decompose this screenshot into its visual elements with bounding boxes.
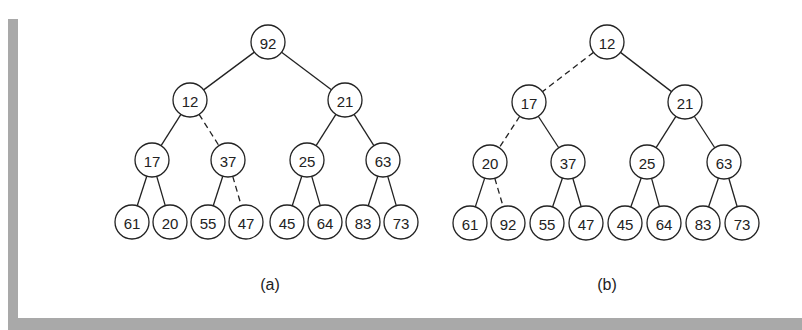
tree-b: 121721203725636192554745648373 xyxy=(453,25,759,240)
tree-edge xyxy=(652,178,660,206)
dashed-edge xyxy=(199,114,219,145)
node-label: 17 xyxy=(144,153,161,170)
tree-node: 37 xyxy=(551,145,585,179)
node-label: 55 xyxy=(539,216,556,233)
dashed-edge xyxy=(233,176,242,205)
node-label: 37 xyxy=(560,155,577,172)
node-label: 55 xyxy=(200,215,217,232)
tree-edge xyxy=(368,176,378,206)
node-label: 37 xyxy=(220,153,237,170)
tree-a: 921221173725636120554745648373 xyxy=(115,25,418,239)
tree-edge xyxy=(729,178,737,206)
tree-node: 45 xyxy=(270,205,304,239)
caption-b: (b) xyxy=(597,276,617,294)
tree-node: 83 xyxy=(346,205,380,239)
node-label: 83 xyxy=(695,216,712,233)
tree-edge xyxy=(282,52,332,90)
tree-node: 12 xyxy=(173,83,207,117)
node-label: 47 xyxy=(578,216,595,233)
node-label: 45 xyxy=(617,216,634,233)
tree-node: 20 xyxy=(153,205,187,239)
node-label: 63 xyxy=(716,155,733,172)
node-label: 20 xyxy=(162,215,179,232)
tree-edge xyxy=(475,178,484,207)
tree-edge xyxy=(388,176,397,205)
tree-node: 37 xyxy=(211,143,245,177)
node-label: 45 xyxy=(279,215,296,232)
node-label: 25 xyxy=(639,155,656,172)
node-label: 21 xyxy=(337,93,354,110)
tree-node: 17 xyxy=(135,143,169,177)
tree-node: 73 xyxy=(725,206,759,240)
tree-node: 61 xyxy=(115,205,149,239)
tree-edge xyxy=(656,116,676,147)
node-label: 63 xyxy=(375,153,392,170)
tree-edge xyxy=(161,114,181,145)
node-label: 12 xyxy=(182,93,199,110)
node-label: 25 xyxy=(299,153,316,170)
node-label: 61 xyxy=(124,215,141,232)
node-label: 20 xyxy=(482,155,499,172)
tree-edge xyxy=(213,176,223,206)
tree-edge xyxy=(157,176,166,205)
tree-node: 47 xyxy=(569,206,603,240)
tree-node: 25 xyxy=(290,143,324,177)
tree-node: 64 xyxy=(308,205,342,239)
tree-edge xyxy=(573,178,581,206)
node-label: 92 xyxy=(500,216,517,233)
tree-edge xyxy=(538,116,558,147)
node-label: 64 xyxy=(656,216,673,233)
tree-edge xyxy=(316,114,336,145)
tree-edge xyxy=(553,178,563,207)
tree-node: 63 xyxy=(707,145,741,179)
node-label: 61 xyxy=(462,216,479,233)
node-label: 73 xyxy=(393,215,410,232)
tree-edge xyxy=(137,176,147,206)
tree-node: 55 xyxy=(530,206,564,240)
dashed-edge xyxy=(495,178,503,206)
tree-node: 20 xyxy=(473,145,507,179)
dashed-edge xyxy=(499,116,519,147)
tree-edge xyxy=(620,52,671,91)
tree-node: 45 xyxy=(608,206,642,240)
tree-edge xyxy=(709,178,719,207)
tree-node: 63 xyxy=(366,143,400,177)
tree-node: 12 xyxy=(590,25,624,59)
node-label: 12 xyxy=(599,35,616,52)
tree-node: 17 xyxy=(512,85,546,119)
tree-node: 21 xyxy=(668,85,702,119)
node-label: 64 xyxy=(317,215,334,232)
tree-edge xyxy=(312,176,321,205)
caption-a: (a) xyxy=(260,276,280,294)
tree-node: 25 xyxy=(630,145,664,179)
tree-node: 21 xyxy=(328,83,362,117)
tree-node: 64 xyxy=(647,206,681,240)
tree-edge xyxy=(631,178,641,207)
tree-edge xyxy=(204,52,255,90)
tree-node: 61 xyxy=(453,206,487,240)
node-label: 47 xyxy=(238,215,255,232)
tree-node: 55 xyxy=(191,205,225,239)
tree-edge xyxy=(354,114,374,145)
tree-node: 73 xyxy=(384,205,418,239)
node-label: 17 xyxy=(521,95,538,112)
heap-diagram: 9212211737256361205547456483731217212037… xyxy=(0,0,802,330)
tree-edge xyxy=(292,176,302,206)
node-label: 21 xyxy=(677,95,694,112)
tree-node: 83 xyxy=(686,206,720,240)
tree-node: 92 xyxy=(491,206,525,240)
tree-node: 47 xyxy=(229,205,263,239)
node-label: 83 xyxy=(355,215,372,232)
dashed-edge xyxy=(542,52,593,91)
node-label: 92 xyxy=(260,35,277,52)
node-label: 73 xyxy=(734,216,751,233)
tree-edge xyxy=(694,116,714,147)
tree-node: 92 xyxy=(251,25,285,59)
